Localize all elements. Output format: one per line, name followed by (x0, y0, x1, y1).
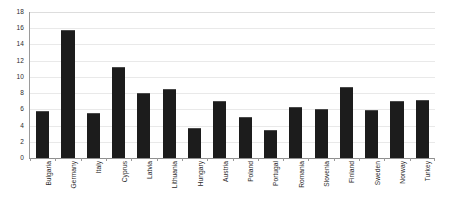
y-axis: 024681012141618 (0, 0, 28, 217)
x-tick-label: Poland (248, 161, 255, 182)
y-tick-label: 4 (20, 122, 24, 129)
x-tick-label: Finland (349, 161, 356, 183)
y-tick-label: 16 (17, 25, 24, 32)
plot-area (30, 12, 435, 158)
bar (315, 109, 328, 158)
bar (264, 130, 277, 158)
bar (390, 101, 403, 158)
x-tick-label: Sweden (375, 161, 382, 185)
bar (112, 67, 125, 158)
x-tick-label: Latvia (147, 161, 154, 179)
x-tick-label: Italy (96, 161, 103, 173)
x-tick-label: Lithuania (172, 161, 179, 188)
x-tick-label: Slovenia (324, 161, 331, 187)
y-tick-label: 14 (17, 41, 24, 48)
bar (239, 117, 252, 158)
bar (289, 107, 302, 158)
y-tick-label: 18 (17, 9, 24, 16)
y-tick-label: 8 (20, 90, 24, 97)
bar (36, 111, 49, 158)
bar (365, 110, 378, 158)
bar (163, 89, 176, 158)
bar (340, 87, 353, 158)
y-tick-label: 12 (17, 57, 24, 64)
x-tick-label: Cyprus (122, 161, 129, 182)
x-tick-label: Germany (71, 161, 78, 188)
bar-chart: 024681012141618 BulgariaGermanyItalyCypr… (0, 0, 456, 217)
y-tick-label: 6 (20, 106, 24, 113)
x-tick-label: Bulgaria (46, 161, 53, 186)
x-tick-label: Turkey (425, 161, 432, 181)
bar (213, 101, 226, 158)
bar (188, 128, 201, 158)
bar (416, 100, 429, 158)
bar (87, 113, 100, 158)
bar (137, 93, 150, 158)
bars-layer (30, 12, 435, 158)
x-tick-label: Norway (400, 161, 407, 184)
x-tick-label: Romania (299, 161, 306, 188)
y-tick-label: 2 (20, 139, 24, 146)
y-tick-label: 10 (17, 74, 24, 81)
x-tick-label: Hungary (198, 161, 205, 186)
x-tick-label: Portugal (273, 161, 280, 186)
x-tick-label: Austria (223, 161, 230, 182)
x-axis: BulgariaGermanyItalyCyprusLatviaLithuani… (30, 161, 435, 217)
bar (61, 30, 74, 158)
y-tick-label: 0 (20, 155, 24, 162)
